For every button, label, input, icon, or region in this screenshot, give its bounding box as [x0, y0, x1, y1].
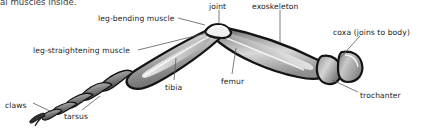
- label-claws: claws: [5, 101, 27, 110]
- label-tibia: tibia: [165, 83, 182, 92]
- leg-illustration: [0, 0, 437, 128]
- label-leg-bending-muscle: leg-bending muscle: [98, 14, 175, 23]
- label-joint: joint: [209, 2, 226, 11]
- label-trochanter: trochanter: [360, 91, 401, 100]
- joint-apex: [205, 24, 231, 38]
- label-femur: femur: [221, 77, 244, 86]
- label-leg-straightening-muscle: leg-straightening muscle: [33, 46, 130, 55]
- insect-leg-diagram: al muscles inside.: [0, 0, 437, 128]
- label-tarsus: tarsus: [64, 112, 88, 121]
- leader-leg-bending-muscle: [178, 18, 205, 25]
- label-coxa: coxa (joins to body): [333, 28, 410, 37]
- label-exoskeleton: exoskeleton: [252, 2, 299, 11]
- leader-claws: [33, 103, 52, 112]
